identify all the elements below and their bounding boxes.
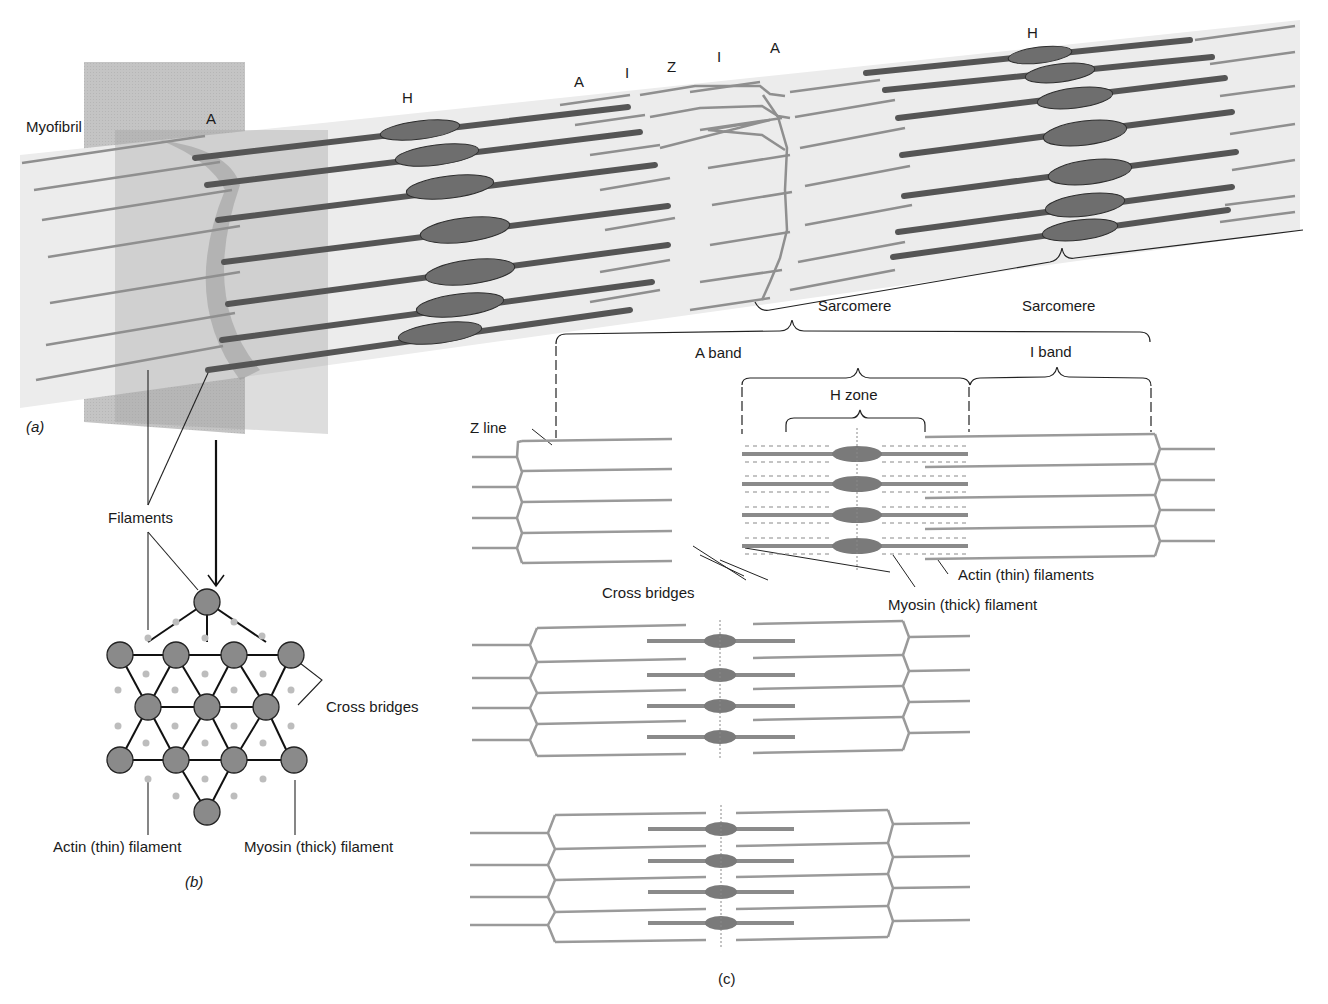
band-label-a3: A <box>770 39 780 56</box>
myofibril-label: Myofibril <box>26 118 82 135</box>
band-label-i1: I <box>625 64 629 81</box>
panel-a-myofibril: Myofibril A H A I Z I A H Sarcomere (a) <box>20 20 1303 435</box>
panel-b-tag: (b) <box>185 873 203 890</box>
band-label-h2: H <box>1027 24 1038 41</box>
myosin-label-b: Myosin (thick) filament <box>244 838 394 855</box>
band-label-a2: A <box>574 73 584 90</box>
band-label-i2: I <box>717 48 721 65</box>
sarcomere-state-3 <box>470 805 970 948</box>
z-line-label: Z line <box>470 419 507 436</box>
sarcomere-state-1 <box>472 428 1215 572</box>
panel-a-tag: (a) <box>26 418 44 435</box>
myosin-row <box>742 428 968 572</box>
sarcomere-label-a: Sarcomere <box>1022 297 1095 314</box>
muscle-structure-diagram: Myofibril A H A I Z I A H Sarcomere (a) <box>0 0 1328 1004</box>
cross-bridges-label-c: Cross bridges <box>602 584 695 601</box>
actin-label-c: Actin (thin) filaments <box>958 566 1094 583</box>
sarcomere-label-c: Sarcomere <box>818 297 891 314</box>
panel-c-sarcomere-states: Sarcomere A band I band H zone Z line Cr… <box>470 297 1215 987</box>
panel-b-cross-section: Filaments Cross bridges Actin (thin) fil… <box>53 370 419 890</box>
filaments-label: Filaments <box>108 509 173 526</box>
actin-label-b: Actin (thin) filament <box>53 838 182 855</box>
panel-c-brackets <box>556 320 1151 438</box>
cross-bridges-label-b: Cross bridges <box>326 698 419 715</box>
i-band-label: I band <box>1030 343 1072 360</box>
band-label-z: Z <box>667 58 676 75</box>
sarcomere-state-2 <box>472 620 970 760</box>
h-zone-label: H zone <box>830 386 878 403</box>
band-label-a1: A <box>206 110 216 127</box>
band-label-h1: H <box>402 89 413 106</box>
myosin-label-c: Myosin (thick) filament <box>888 596 1038 613</box>
a-band-label: A band <box>695 344 742 361</box>
panel-c-tag: (c) <box>718 970 736 987</box>
